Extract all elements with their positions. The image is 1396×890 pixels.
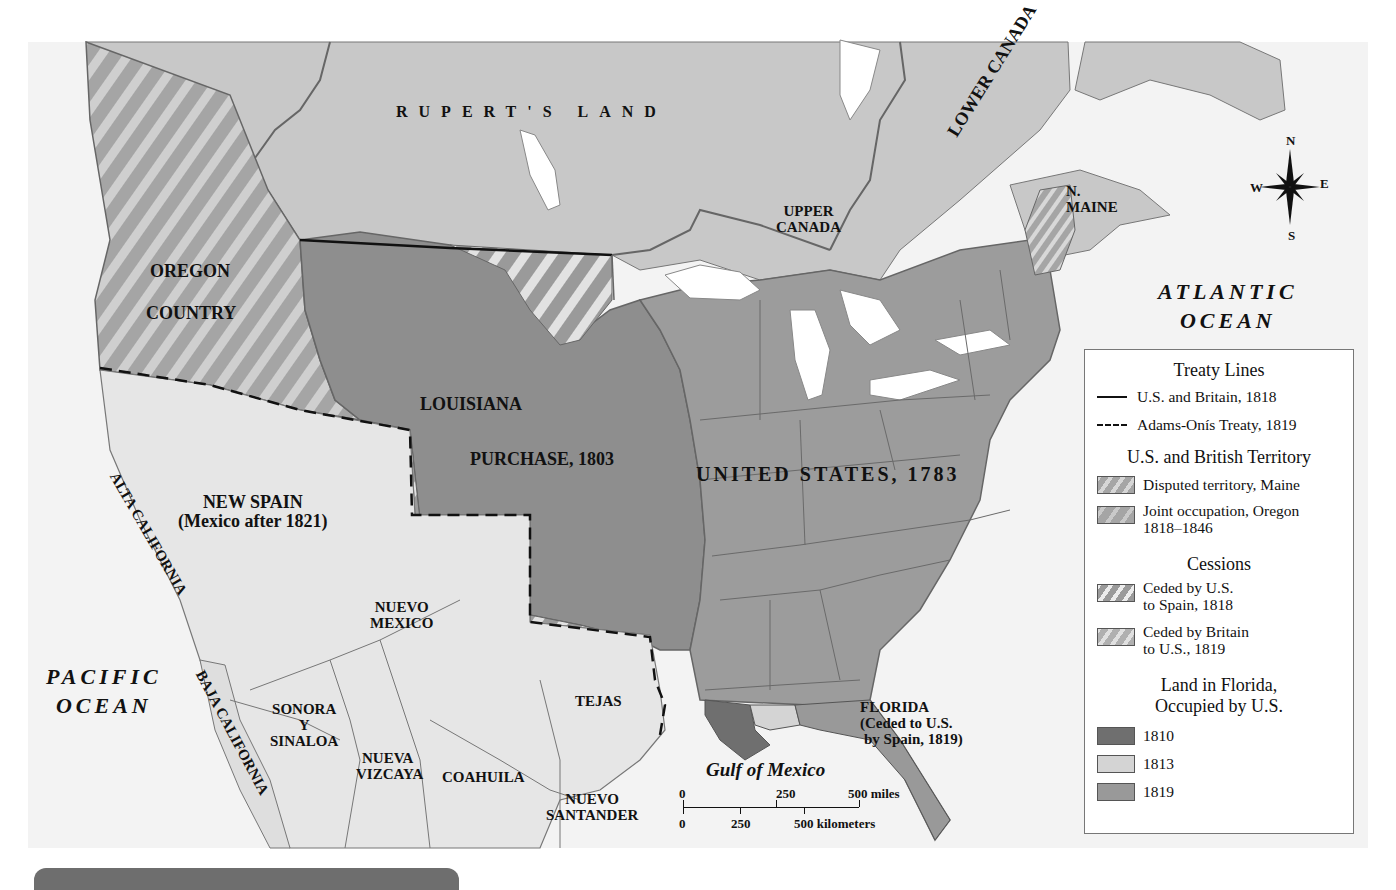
hatch-swatch-icon bbox=[1097, 476, 1135, 494]
hatch-swatch-icon bbox=[1097, 506, 1135, 524]
legend-item-ceded-britain-us: Ceded by Britainto U.S., 1819 bbox=[1085, 623, 1353, 657]
label-florida: FLORIDA (Ceded to U.S. by Spain, 1819) bbox=[860, 700, 963, 747]
label-nueva-vizcaya: NUEVA VIZCAYA bbox=[356, 751, 423, 783]
legend-item-joint-oregon: Joint occupation, Oregon1818–1846 bbox=[1085, 502, 1353, 536]
svg-text:N: N bbox=[1286, 133, 1296, 148]
legend-title-territory: U.S. and British Territory bbox=[1085, 447, 1353, 468]
label-louisiana: LOUISIANA bbox=[420, 395, 522, 414]
label-country: COUNTRY bbox=[146, 304, 236, 323]
solid-line-icon bbox=[1097, 396, 1127, 398]
hatch-swatch-icon bbox=[1097, 584, 1135, 602]
map-legend: Treaty Lines U.S. and Britain, 1818 Adam… bbox=[1084, 349, 1354, 834]
legend-title-florida: Land in Florida,Occupied by U.S. bbox=[1085, 675, 1353, 717]
legend-item-us-britain-1818: U.S. and Britain, 1818 bbox=[1085, 388, 1353, 405]
label-coahuila: COAHUILA bbox=[442, 770, 525, 786]
legend-item-ceded-us-spain: Ceded by U.S.to Spain, 1818 bbox=[1085, 579, 1353, 613]
label-sonora: SONORA Y SINALOA bbox=[270, 702, 338, 749]
label-ruperts-land: RUPERT'S LAND bbox=[396, 104, 667, 121]
color-swatch-icon bbox=[1097, 727, 1135, 745]
compass-rose-icon: N S W E bbox=[1250, 132, 1330, 242]
svg-text:S: S bbox=[1288, 228, 1295, 242]
label-pacific-ocean: PACIFIC OCEAN bbox=[46, 665, 162, 717]
label-tejas: TEJAS bbox=[575, 694, 622, 710]
label-oregon: OREGON bbox=[150, 262, 230, 281]
hatch-swatch-icon bbox=[1097, 628, 1135, 646]
legend-item-adams-onis-1819: Adams-Onís Treaty, 1819 bbox=[1085, 416, 1353, 433]
label-n-maine: N. MAINE bbox=[1066, 184, 1118, 216]
label-gulf-of-mexico: Gulf of Mexico bbox=[706, 760, 825, 780]
svg-text:E: E bbox=[1320, 176, 1329, 191]
label-purchase-1803: PURCHASE, 1803 bbox=[470, 450, 614, 469]
map-frame: RUPERT'S LAND LOWER CANADA UPPER CANADA … bbox=[0, 0, 1396, 850]
caption-bar bbox=[34, 868, 459, 890]
legend-item-1810: 1810 bbox=[1085, 727, 1353, 745]
svg-text:W: W bbox=[1250, 180, 1263, 195]
color-swatch-icon bbox=[1097, 783, 1135, 801]
label-new-spain: NEW SPAIN (Mexico after 1821) bbox=[178, 493, 328, 531]
label-united-states: UNITED STATES, 1783 bbox=[696, 464, 960, 485]
legend-item-1819: 1819 bbox=[1085, 783, 1353, 801]
legend-item-1813: 1813 bbox=[1085, 755, 1353, 773]
label-nuevo-mexico: NUEVO MEXICO bbox=[370, 600, 433, 632]
dashed-line-icon bbox=[1097, 424, 1127, 426]
label-nuevo-santander: NUEVO SANTANDER bbox=[546, 792, 638, 824]
color-swatch-icon bbox=[1097, 755, 1135, 773]
label-atlantic-ocean: ATLANTIC OCEAN bbox=[1158, 280, 1298, 332]
legend-item-disputed-maine: Disputed territory, Maine bbox=[1085, 476, 1353, 494]
florida-1813 bbox=[750, 705, 800, 730]
label-upper-canada: UPPER CANADA bbox=[776, 204, 841, 236]
legend-title-treaty-lines: Treaty Lines bbox=[1085, 360, 1353, 381]
legend-title-cessions: Cessions bbox=[1085, 554, 1353, 575]
scale-bar: 0 250 500 miles 0 250 500 kilometers bbox=[676, 786, 916, 846]
